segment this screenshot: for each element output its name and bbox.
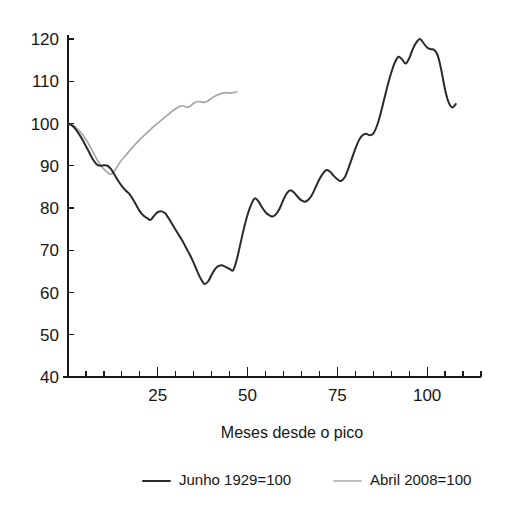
line-chart: 405060708090100110120 255075100 Meses de… (0, 0, 529, 516)
x-axis-ticks: 255075100 (68, 367, 481, 405)
chart-legend: Junho 1929=100Abril 2008=100 (143, 471, 471, 488)
series-line-junho-1929 (68, 39, 456, 284)
y-tick-label: 60 (40, 284, 59, 303)
x-axis-title: Meses desde o pico (221, 424, 363, 441)
y-tick-label: 80 (40, 199, 59, 218)
legend-label: Junho 1929=100 (179, 471, 291, 488)
legend-label: Abril 2008=100 (370, 471, 471, 488)
series-group (68, 39, 456, 284)
axes-group (63, 35, 481, 377)
x-tick-label: 25 (148, 386, 167, 405)
x-tick-label: 100 (413, 386, 441, 405)
y-tick-label: 120 (31, 30, 59, 49)
x-tick-label: 50 (238, 386, 257, 405)
y-tick-label: 100 (31, 115, 59, 134)
y-tick-label: 40 (40, 368, 59, 387)
y-tick-label: 90 (40, 157, 59, 176)
y-tick-label: 70 (40, 241, 59, 260)
y-tick-label: 110 (32, 72, 59, 91)
chart-container: 405060708090100110120 255075100 Meses de… (0, 0, 529, 516)
y-tick-label: 50 (40, 326, 59, 345)
x-tick-label: 75 (328, 386, 347, 405)
